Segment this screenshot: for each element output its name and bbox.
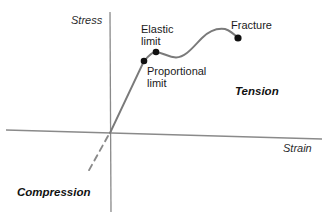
fracture-marker [234,34,241,41]
elastic-limit-label-line2: limit [141,35,161,47]
compression-region-label: Compression [17,186,91,198]
tension-region-label: Tension [235,85,279,97]
compression-dashed-line [88,136,108,172]
y-axis-line [110,12,111,212]
y-axis-label: Stress [71,14,103,26]
elastic-limit-label-line1: Elastic [141,23,174,35]
fracture-label: Fracture [231,19,272,31]
stress-strain-figure: Stress Strain Elastic limit Proportional… [0,0,330,224]
stress-strain-svg: Stress Strain Elastic limit Proportional… [0,0,330,224]
proportional-limit-label-line2: limit [147,77,167,89]
x-axis-line [6,130,322,139]
elastic-limit-marker [153,49,160,56]
proportional-limit-marker [141,58,148,65]
proportional-limit-label-line1: Proportional [147,65,206,77]
tension-curve [110,29,238,133]
x-axis-label: Strain [283,142,312,154]
